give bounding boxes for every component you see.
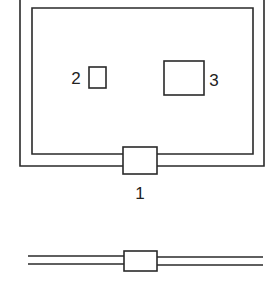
component-3-label: 3 bbox=[209, 71, 218, 90]
connector-1-box bbox=[123, 147, 157, 174]
component-2-box bbox=[89, 67, 106, 88]
straight-line-connector-box bbox=[124, 251, 157, 271]
connector-1-label: 1 bbox=[135, 184, 144, 203]
enclosure-inner-wall bbox=[32, 8, 253, 154]
diagram-canvas: 1 2 3 bbox=[0, 0, 277, 292]
component-3-box bbox=[164, 61, 204, 95]
component-2-label: 2 bbox=[71, 69, 80, 88]
enclosure-outer-wall bbox=[20, 0, 264, 166]
